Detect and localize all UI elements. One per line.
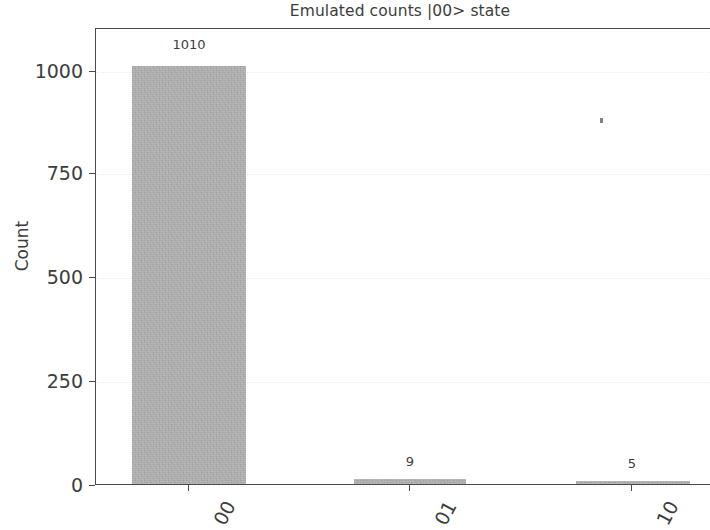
plot-area: 1010 9 5 [95, 28, 710, 485]
y-tick-label-750: 750 [3, 162, 83, 184]
bar-value-label-00: 1010 [172, 37, 205, 52]
y-tick-label-250: 250 [3, 370, 83, 392]
image-artifact-speck [600, 118, 603, 123]
bar-00 [132, 66, 246, 484]
bar-value-label-10: 5 [628, 456, 636, 471]
bar-10 [576, 481, 690, 484]
y-tick-label-0: 0 [3, 474, 83, 496]
bar-value-label-01: 9 [406, 454, 414, 469]
y-tick-label-1000: 1000 [3, 60, 83, 82]
bar-texture [132, 66, 246, 484]
x-tick-mark-10 [631, 485, 632, 491]
x-tick-mark-01 [409, 485, 410, 491]
x-tick-label-00: 00 [209, 497, 240, 529]
chart-title: Emulated counts |00> state [95, 2, 705, 20]
bar-texture [354, 479, 466, 484]
y-tick-label-500: 500 [3, 266, 83, 288]
x-tick-label-01: 01 [430, 497, 461, 529]
x-tick-mark-00 [188, 485, 189, 491]
x-tick-label-10: 10 [652, 497, 683, 529]
bar-01 [354, 479, 466, 484]
bar-texture [576, 481, 690, 484]
y-tick-mark-0 [89, 485, 95, 486]
